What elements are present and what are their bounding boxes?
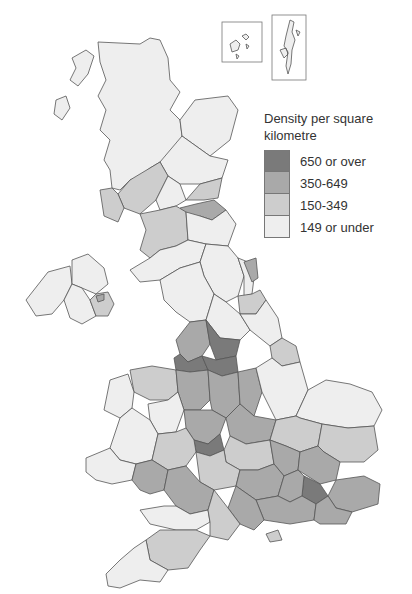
legend-label: 149 or under (300, 220, 374, 235)
legend-swatch (264, 194, 290, 216)
legend-swatch (264, 150, 290, 172)
legend-item-650-or-over: 650 or over (264, 150, 412, 172)
legend-item-149-or-under: 149 or under (264, 216, 412, 238)
legend-label: 350-649 (300, 176, 348, 191)
legend-swatch (264, 172, 290, 194)
legend-title: Density per square kilometre (264, 110, 412, 144)
legend: Density per square kilometre 650 or over… (264, 110, 412, 238)
legend-swatch (264, 216, 290, 238)
legend-label: 150-349 (300, 198, 348, 213)
uk-density-map (0, 0, 412, 594)
legend-label: 650 or over (300, 154, 366, 169)
legend-item-150-349: 150-349 (264, 194, 412, 216)
legend-item-350-649: 350-649 (264, 172, 412, 194)
inset-shetland (272, 15, 306, 80)
inset-orkney (222, 22, 262, 62)
northern-ireland (26, 254, 114, 324)
